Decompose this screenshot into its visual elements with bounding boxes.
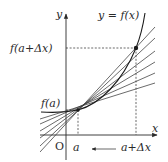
point-q: [134, 46, 138, 50]
point-p: [76, 108, 80, 112]
origin-label: O: [55, 140, 64, 153]
y-axis-label: y: [55, 8, 63, 21]
label-f-a: f(a): [40, 97, 60, 110]
label-a: a: [73, 141, 80, 154]
label-a-dx: a+Δx: [121, 141, 152, 154]
curve-label: y = f(x): [97, 9, 139, 22]
secant-lines: [40, 27, 155, 152]
label-f-a-dx: f(a+Δx): [9, 42, 53, 55]
secant-tangent-diagram: y x O y = f(x) f(a+Δx) f(a) a a+Δx: [0, 0, 168, 162]
x-axis-label: x: [152, 122, 159, 135]
